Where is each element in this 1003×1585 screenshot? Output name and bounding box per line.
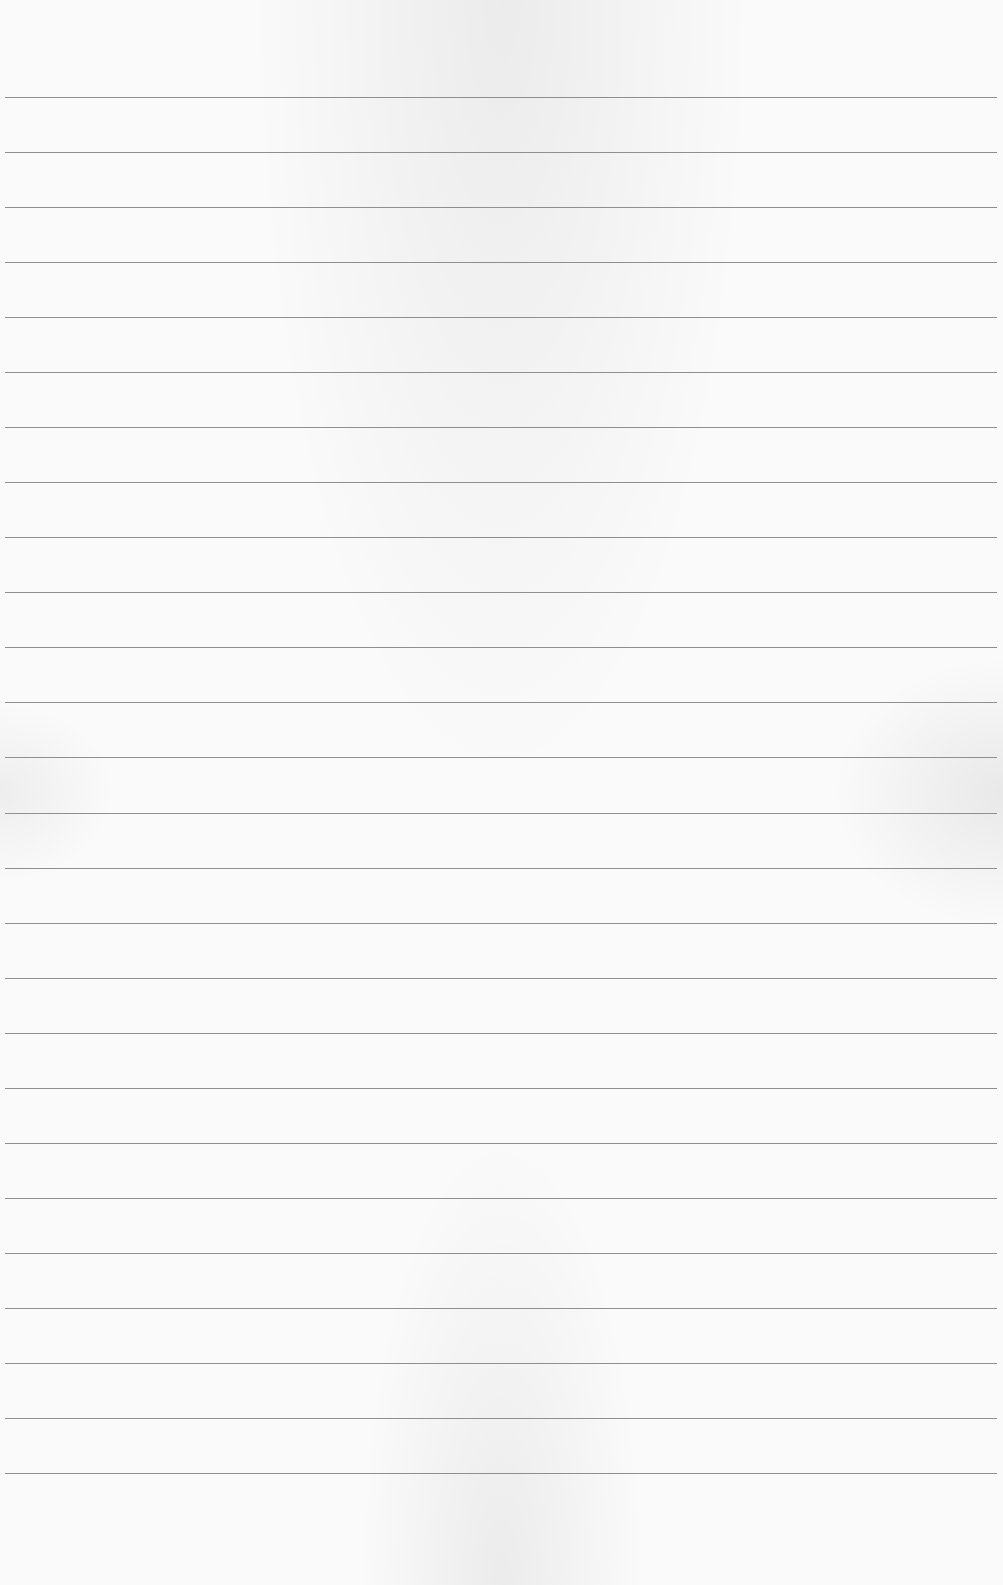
ruled-line [5, 152, 997, 153]
ruled-line [5, 1198, 997, 1199]
ruled-line [5, 978, 997, 979]
ruled-line [5, 317, 997, 318]
ruled-line [5, 1473, 997, 1474]
ruled-line [5, 1143, 997, 1144]
lined-paper-sheet [0, 0, 1003, 1585]
ruled-line [5, 813, 997, 814]
ruled-line [5, 757, 997, 758]
ruled-line [5, 592, 997, 593]
ruled-line [5, 868, 997, 869]
ruled-line [5, 1253, 997, 1254]
ruled-line [5, 923, 997, 924]
ruled-line [5, 647, 997, 648]
ruled-line [5, 1308, 997, 1309]
ruled-line [5, 207, 997, 208]
ruled-line [5, 1033, 997, 1034]
ruled-line [5, 537, 997, 538]
ruled-line [5, 702, 997, 703]
ruled-line [5, 1088, 997, 1089]
ruled-line [5, 372, 997, 373]
ruled-line [5, 262, 997, 263]
ruled-line [5, 482, 997, 483]
ruled-line [5, 427, 997, 428]
ruled-line [5, 1418, 997, 1419]
ruled-line [5, 1363, 997, 1364]
ruled-line [5, 97, 997, 98]
